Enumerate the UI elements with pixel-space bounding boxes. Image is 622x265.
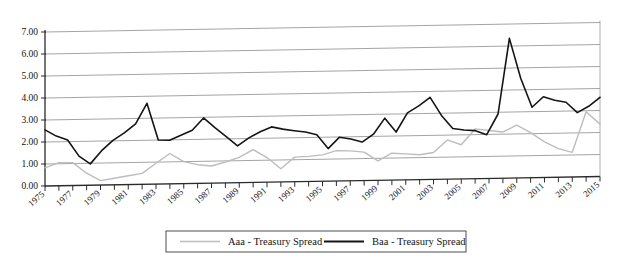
- gridline: [45, 67, 600, 77]
- x-axis-tick-label: 2009: [498, 181, 518, 201]
- x-axis-tick-label: 1983: [137, 187, 157, 207]
- y-axis-tick-label: 6.00: [21, 49, 38, 59]
- legend-label-aaa: Aaa - Treasury Spread: [228, 236, 323, 247]
- axes-group: [45, 21, 600, 187]
- x-axis-tick-label: 1977: [54, 188, 74, 208]
- series-line-aaa: [45, 112, 600, 181]
- gridline: [45, 45, 600, 55]
- x-axis-tick-label: 2015: [581, 179, 601, 199]
- x-axis-tick-label: 1975: [26, 189, 46, 209]
- x-axis-tick-label: 1993: [276, 184, 296, 204]
- y-axis-tick-label: 2.00: [21, 137, 38, 147]
- gridline: [45, 89, 600, 99]
- x-axis-labels-group: 1975197719791981198319851987198919911993…: [26, 179, 601, 208]
- y-axis-tick-label: 3.00: [21, 115, 38, 125]
- x-axis-tick-label: 1997: [332, 184, 352, 204]
- x-axis-tick-label: 1991: [248, 185, 268, 204]
- y-axis-tick-label: 0.00: [21, 181, 38, 191]
- legend-label-baa: Baa - Treasury Spread: [372, 236, 466, 247]
- y-axis-tick-label: 1.00: [21, 159, 38, 169]
- x-axis-tick-label: 2001: [387, 183, 407, 202]
- y-axis-tick-label: 7.00: [21, 27, 38, 37]
- series-line-baa: [45, 38, 600, 164]
- x-axis-tick-label: 1981: [110, 188, 130, 207]
- x-axis-tick-label: 2003: [415, 182, 435, 202]
- gridline: [45, 111, 600, 121]
- x-axis-tick-label: 2007: [470, 181, 490, 201]
- y-axis-tick-label: 5.00: [21, 71, 38, 81]
- x-axis-tick-label: 2005: [443, 182, 463, 202]
- x-axis-tick-label: 1985: [165, 186, 185, 206]
- chart-container: 0.001.002.003.004.005.006.007.00 1975197…: [0, 0, 622, 265]
- chart-legend: Aaa - Treasury SpreadBaa - Treasury Spre…: [166, 231, 466, 252]
- x-axis-tick-label: 1995: [304, 184, 324, 204]
- x-axis-tick-label: 1987: [193, 186, 213, 206]
- gridline: [45, 23, 600, 33]
- x-axis-tick-label: 1989: [221, 185, 241, 205]
- y-axis-tick-label: 4.00: [21, 93, 38, 103]
- gridline: [45, 155, 600, 165]
- line-chart: 0.001.002.003.004.005.006.007.00 1975197…: [0, 0, 622, 265]
- x-axis-tick-label: 1979: [82, 188, 102, 208]
- x-axis-tick-label: 2013: [554, 180, 574, 200]
- y-axis-labels-group: 0.001.002.003.004.005.006.007.00: [21, 27, 46, 191]
- x-axis-tick-label: 2011: [526, 181, 546, 200]
- x-axis-tick-label: 1999: [359, 183, 379, 203]
